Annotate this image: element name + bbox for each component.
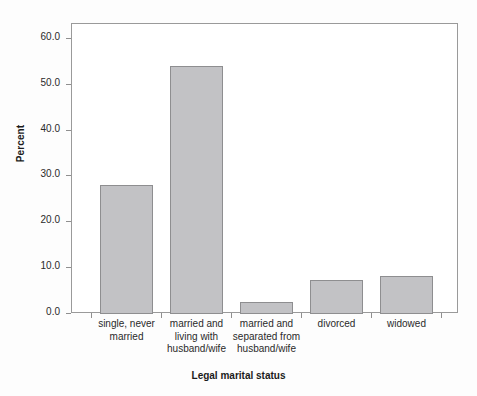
x-label-line: single, never	[86, 318, 167, 331]
bar-widowed[interactable]	[380, 276, 433, 314]
y-tick-label-6: 60.0	[41, 31, 60, 42]
x-tick-label-widowed: widowed	[366, 318, 447, 331]
bar-single-never-married[interactable]	[100, 185, 153, 314]
y-tick-label-0: 0.0	[46, 306, 60, 317]
x-tick-label-divorced: divorced	[296, 318, 377, 331]
bar-chart: Percent 0.0 10.0 20.0 30.0 40.0 50.0 60.…	[0, 0, 477, 396]
x-label-line: widowed	[366, 318, 447, 331]
y-tick-mark-0	[66, 313, 71, 314]
y-tick-label-5: 50.0	[41, 77, 60, 88]
x-tick-label-single-never-married: single, never married	[86, 318, 167, 343]
x-label-line: husband/wife	[224, 343, 309, 356]
x-label-line: separated from	[224, 331, 309, 344]
bar-divorced[interactable]	[310, 280, 363, 314]
x-axis-title: Legal marital status	[0, 370, 477, 381]
x-label-line: divorced	[296, 318, 377, 331]
y-tick-label-2: 20.0	[41, 214, 60, 225]
y-tick-label-3: 30.0	[41, 168, 60, 179]
y-tick-label-4: 40.0	[41, 123, 60, 134]
bar-married-separated[interactable]	[240, 302, 293, 314]
x-label-line: married	[86, 331, 167, 344]
y-axis-title: Percent	[15, 104, 26, 184]
bar-married-living-with[interactable]	[170, 66, 223, 314]
y-tick-label-1: 10.0	[41, 260, 60, 271]
